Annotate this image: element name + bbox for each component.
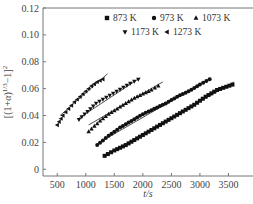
square-marker bbox=[230, 83, 234, 87]
legend-item: 873 K bbox=[105, 13, 137, 23]
triangle-down-marker bbox=[114, 90, 118, 94]
triangle-down-marker bbox=[77, 118, 81, 122]
y-axis-title: [(1+α)1/3−1]2 bbox=[1, 65, 14, 118]
square-marker bbox=[105, 16, 109, 20]
y-axis-ticks: 00.020.040.060.080.100.12 bbox=[22, 3, 47, 175]
y-tick-label: 0.02 bbox=[22, 137, 40, 148]
x-tick-label: 3500 bbox=[218, 179, 238, 190]
series-873-K bbox=[103, 83, 235, 158]
y-tick-label: 0.04 bbox=[22, 110, 40, 121]
legend-item: 973 K bbox=[152, 13, 184, 23]
y-tick-label: 0.10 bbox=[22, 29, 40, 40]
legend-label: 1073 K bbox=[202, 13, 230, 23]
circle-marker bbox=[208, 77, 212, 81]
x-tick-label: 1500 bbox=[104, 179, 124, 190]
triangle-left-marker bbox=[164, 30, 168, 35]
legend-label: 1173 K bbox=[131, 27, 159, 37]
y-tick-label: 0.12 bbox=[22, 3, 40, 14]
triangle-down-marker bbox=[123, 30, 128, 34]
x-tick-label: 3000 bbox=[190, 179, 210, 190]
data-points bbox=[55, 77, 235, 158]
circle-marker bbox=[152, 16, 156, 20]
x-tick-label: 500 bbox=[50, 179, 65, 190]
legend-item: 1273 K bbox=[164, 27, 201, 37]
y-tick-label: 0.08 bbox=[22, 56, 40, 67]
x-tick-label: 2500 bbox=[161, 179, 181, 190]
x-axis-title: t/s bbox=[143, 188, 153, 199]
triangle-down-marker bbox=[111, 92, 115, 96]
y-tick-label: 0.06 bbox=[22, 83, 40, 94]
triangle-left-marker bbox=[55, 123, 59, 127]
legend-item: 1173 K bbox=[123, 27, 159, 37]
y-tick-label: 0 bbox=[34, 164, 39, 175]
triangle-up-marker bbox=[194, 15, 199, 19]
svg-text:[(1+α)1/3−1]2: [(1+α)1/3−1]2 bbox=[1, 65, 14, 118]
legend-label: 973 K bbox=[160, 13, 184, 23]
legend-label: 873 K bbox=[113, 13, 137, 23]
legend-item: 1073 K bbox=[194, 13, 231, 23]
chart: 00.020.040.060.080.100.12 50010001500200… bbox=[0, 0, 253, 204]
legend: 873 K973 K1073 K1173 K1273 K bbox=[105, 13, 231, 37]
x-tick-label: 1000 bbox=[76, 179, 96, 190]
fit-lines bbox=[60, 74, 234, 156]
legend-label: 1273 K bbox=[173, 27, 201, 37]
